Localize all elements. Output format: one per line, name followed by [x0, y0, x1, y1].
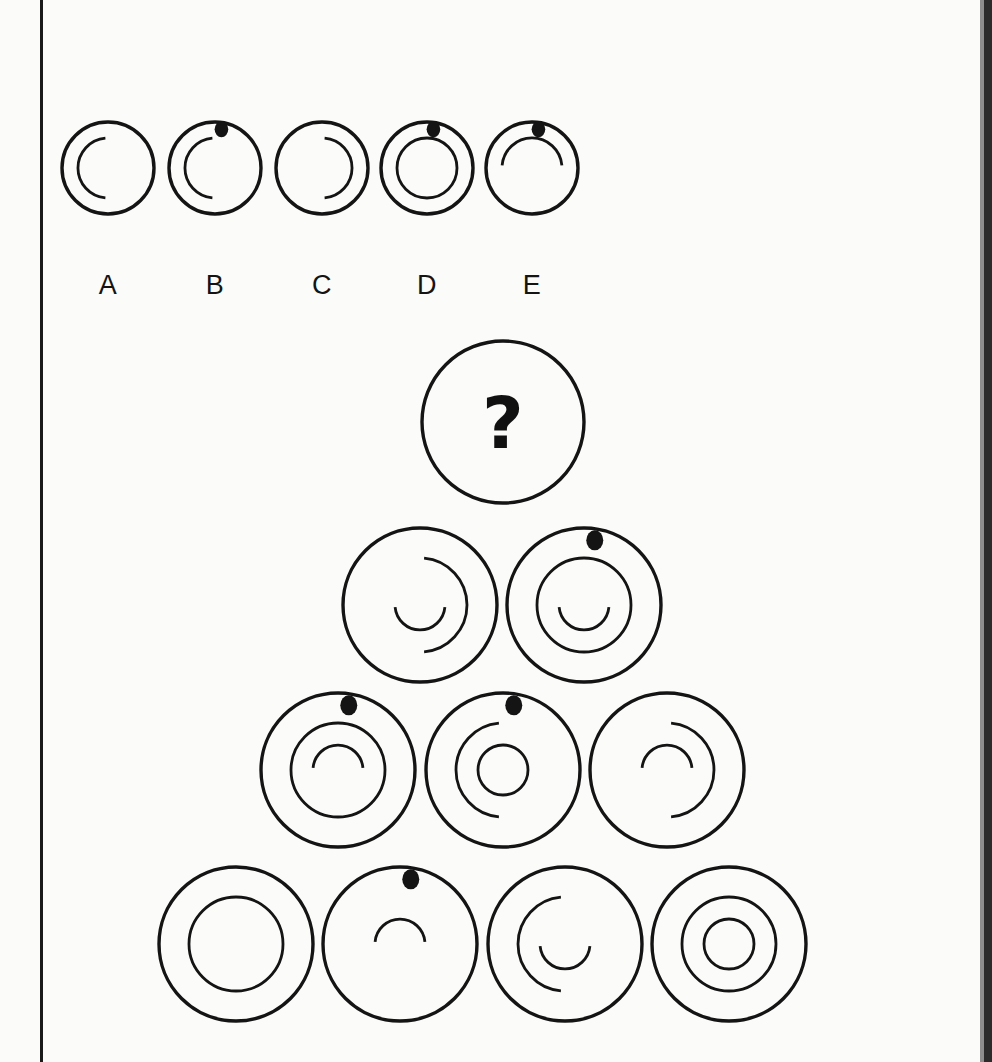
pyramid-cell-r2c1-medium-arc-open-left [424, 558, 467, 652]
pyramid-cell-r4c1-medium-circle [189, 897, 283, 991]
option-a [62, 122, 154, 214]
pyramid-cell-r4c4-small-circle [704, 919, 754, 969]
option-e [486, 121, 578, 214]
pyramid-cell-r4c3 [488, 867, 642, 1021]
pyramid-cell-r3c1-dot [340, 695, 357, 715]
option-e-medium-arc-open-down [502, 138, 562, 165]
pyramid-cell-r2c1-outer-circle [343, 528, 497, 682]
option-c-medium-arc-open-left [325, 138, 352, 198]
pyramid-cell-r2c2 [507, 528, 661, 682]
pyramid-cell-r4c2-small-arc-open-down [375, 919, 425, 942]
option-a-medium-arc-open-right [78, 138, 105, 198]
option-c [276, 122, 368, 214]
pyramid-cell-r3c3-outer-circle [590, 693, 744, 847]
option-b-dot [215, 121, 229, 137]
option-e-outer-circle [486, 122, 578, 214]
pyramid-cell-r3c3-medium-arc-open-left [671, 723, 714, 817]
option-label-a: A [88, 270, 128, 301]
option-b [169, 121, 261, 214]
pyramid-cell-r3c3 [590, 693, 744, 847]
option-b-medium-arc-open-right [185, 138, 212, 198]
pyramid-cell-r3c1-small-arc-open-down [313, 745, 363, 768]
pyramid-cell-r3c3-small-arc-open-down [642, 745, 692, 768]
pyramid-cell-r3c2-outer-circle [426, 693, 580, 847]
pyramid-cell-r3c2-small-circle [478, 745, 528, 795]
option-c-outer-circle [276, 122, 368, 214]
pyramid-cell-r4c2-outer-circle [323, 867, 477, 1021]
pyramid-cell-r4c3-small-arc-open-up [540, 946, 590, 969]
puzzle-page: A B C D E ? [0, 0, 992, 1062]
pyramid-cell-r3c2-dot [505, 695, 522, 715]
option-label-d: D [407, 270, 447, 301]
pyramid-cell-r3c1 [261, 693, 415, 847]
option-label-c: C [302, 270, 342, 301]
pyramid-cell-r4c2 [323, 867, 477, 1021]
pyramid-cell-r4c4 [652, 867, 806, 1021]
pyramid-cell-r4c4-medium-circle [682, 897, 776, 991]
pyramid-cell-r3c1-medium-circle [291, 723, 385, 817]
pyramid-cell-r4c1-outer-circle [159, 867, 313, 1021]
pyramid-cell-r4c3-outer-circle [488, 867, 642, 1021]
pyramid-cell-r4c4-outer-circle [652, 867, 806, 1021]
option-d [381, 121, 473, 214]
pyramid-cell-r4c2-dot [402, 869, 419, 889]
question-mark: ? [473, 381, 533, 465]
option-e-dot [532, 121, 546, 137]
pyramid-cell-r2c2-small-arc-open-up [559, 607, 609, 630]
pyramid-cell-r4c1 [159, 867, 313, 1021]
pyramid-cell-r4c3-medium-arc-open-right [518, 897, 561, 991]
puzzle-canvas [0, 0, 992, 1062]
option-label-e: E [512, 270, 552, 301]
pyramid-cell-r3c1-outer-circle [261, 693, 415, 847]
option-a-outer-circle [62, 122, 154, 214]
option-d-medium-circle [397, 138, 457, 198]
pyramid-cell-r2c1-small-arc-open-up [395, 607, 445, 630]
option-d-outer-circle [381, 122, 473, 214]
pyramid-cell-r2c2-medium-circle [537, 558, 631, 652]
pyramid-cell-r2c2-outer-circle [507, 528, 661, 682]
option-label-b: B [195, 270, 235, 301]
option-d-dot [427, 121, 441, 137]
pyramid-cell-r3c2 [426, 693, 580, 847]
pyramid-cell-r2c1 [343, 528, 497, 682]
pyramid-cell-r2c2-dot [586, 530, 603, 550]
option-b-outer-circle [169, 122, 261, 214]
